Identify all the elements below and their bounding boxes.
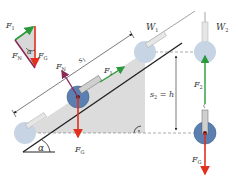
label-fg-vertical: FG (191, 155, 202, 165)
label-f2: F2 (193, 80, 203, 90)
inclined-plane-diagram: F1 FN FG α α s1 W1 (0, 0, 240, 189)
label-fg-small: FG (37, 51, 48, 61)
label-fn-small: FN (11, 51, 23, 61)
force-vector-triangle: F1 FN FG α (5, 21, 48, 68)
label-w2: W2 (216, 22, 228, 33)
label-s1: s1 (77, 54, 87, 65)
right-angle-dot (138, 130, 140, 132)
spring-scale-faded (145, 32, 166, 48)
hook (204, 104, 206, 108)
label-fg: FG (74, 145, 85, 155)
s2-height-dimension: s2 = h (150, 56, 176, 130)
label-s2-h: s2 = h (150, 90, 174, 100)
label-alpha-small: α (27, 48, 32, 56)
label-fn: FN (55, 62, 67, 72)
vertical-lift: W2 F2 FG (191, 12, 228, 174)
label-alpha: α (38, 143, 44, 153)
label-f1: F1 (103, 66, 113, 76)
s1-tick-start (12, 110, 16, 117)
label-f1-small: F1 (5, 21, 15, 31)
spring-scale (202, 110, 208, 134)
s1-tick-end (130, 31, 134, 38)
label-w1: W1 (146, 22, 158, 33)
